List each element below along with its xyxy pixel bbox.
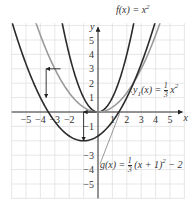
y-tick-label: 3 <box>89 63 94 74</box>
label-g-tail: − 2 <box>166 159 183 170</box>
y-tick-label: −4 <box>83 164 94 175</box>
y-tick-label: 4 <box>89 49 94 60</box>
label-g-frac: 13 <box>128 157 132 174</box>
x-tick-label: 2 <box>124 114 129 125</box>
label-g: g(x) = 13 (x + 1)2 − 2 <box>100 157 182 174</box>
x-tick-label: −2 <box>64 114 75 125</box>
label-f-text: f(x) = x <box>116 4 146 15</box>
y-axis-label: y <box>89 21 95 32</box>
label-g-pre: g(x) = <box>100 159 128 170</box>
label-y1-mid: (x) = <box>141 84 164 95</box>
x-tick-label: 3 <box>139 114 144 125</box>
label-f: f(x) = x2 <box>116 3 150 15</box>
label-g-post: (x + 1) <box>134 159 162 170</box>
y-tick-label: −3 <box>83 150 94 161</box>
label-y1-frac: 13 <box>164 82 168 99</box>
y-tick-label: −5 <box>83 179 94 190</box>
y-tick-label: 1 <box>89 92 94 103</box>
label-f-exp: 2 <box>146 3 150 11</box>
label-y1: y1(x) = 13 x2 <box>133 82 178 99</box>
y-tick-label: 5 <box>89 35 94 46</box>
label-y1-exp: 2 <box>175 82 179 90</box>
x-tick-label: −4 <box>35 114 46 125</box>
x-tick-label: −5 <box>21 114 32 125</box>
x-tick-label: 4 <box>153 114 158 125</box>
x-tick-label: 5 <box>168 114 173 125</box>
chart-canvas: −5−4−3−21234554321−1−3−4−5xy <box>0 0 196 208</box>
y-tick-label: −1 <box>83 121 94 132</box>
x-axis-label: x <box>182 112 188 123</box>
y-tick-label: 2 <box>89 78 94 89</box>
